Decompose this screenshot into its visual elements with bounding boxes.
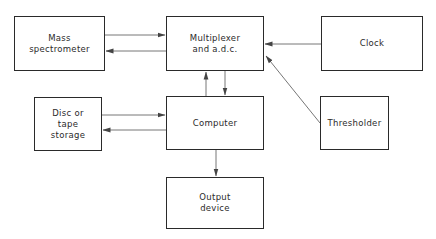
node-computer: Computer <box>166 96 264 150</box>
node-label: Output device <box>199 192 230 214</box>
node-label: Disc or tape storage <box>51 108 85 141</box>
node-label: Thresholder <box>328 118 382 129</box>
node-clock: Clock <box>321 16 423 71</box>
node-thresholder: Thresholder <box>320 96 389 150</box>
node-label: Clock <box>360 38 385 49</box>
node-disc-storage: Disc or tape storage <box>34 97 102 151</box>
node-label: Multiplexer and a.d.c. <box>190 33 240 55</box>
diagram-canvas: Mass spectrometer Multiplexer and a.d.c.… <box>0 0 436 239</box>
arrow-thresholder-to-multiplexer <box>266 56 320 123</box>
node-mass-spectrometer: Mass spectrometer <box>14 16 105 71</box>
node-label: Computer <box>193 118 238 129</box>
node-output-device: Output device <box>166 177 264 229</box>
node-label: Mass spectrometer <box>29 33 90 55</box>
node-multiplexer: Multiplexer and a.d.c. <box>166 16 264 71</box>
